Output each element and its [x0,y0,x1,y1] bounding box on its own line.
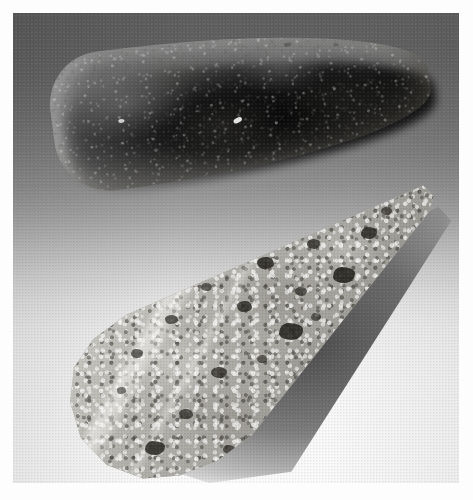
lower-celt-dark-inclusion [307,239,320,249]
lower-celt-dark-inclusion [257,355,267,363]
lower-celt-dark-inclusion [179,409,193,419]
lower-celt-dark-inclusion [201,283,212,291]
lower-celt-dark-inclusion [333,267,355,283]
lower-celt-dark-inclusion [165,315,178,324]
lower-celt-dark-inclusion [295,287,307,296]
lower-celt [61,183,443,483]
lower-celt-dark-inclusion [257,257,274,269]
lower-celt-dark-inclusion [329,197,343,208]
lower-celt-dark-inclusion [279,205,298,218]
lower-celt-dark-inclusion [117,387,126,394]
lower-celt-dark-inclusion [279,323,303,340]
lower-celt-dark-inclusion [311,313,321,321]
artifact-photograph: Two ground-stone celts shown in plan vie… [13,13,459,483]
lower-celt-dark-inclusion [381,207,392,215]
lower-celt-dark-inclusion [211,367,227,378]
lower-celt-dark-inclusion [131,349,143,358]
screenshot-root: Two ground-stone celts shown in plan vie… [0,0,473,500]
lower-celt-dark-inclusion [361,227,377,239]
lower-celt-dark-inclusion [237,301,252,312]
lower-celt-dark-inclusion [145,441,165,455]
